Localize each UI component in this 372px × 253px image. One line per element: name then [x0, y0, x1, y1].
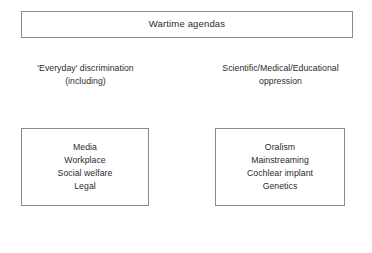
title-box: Wartime agendas	[21, 11, 353, 38]
list-item: Social welfare	[58, 167, 113, 180]
column-header-left: 'Everyday' discrimination (including)	[8, 62, 163, 87]
column-header-right-line1: Scientific/Medical/Educational	[203, 62, 358, 75]
list-item: Workplace	[64, 154, 105, 167]
page-title: Wartime agendas	[149, 19, 225, 29]
column-header-left-line2: (including)	[8, 75, 163, 88]
content-box-right: Oralism Mainstreaming Cochlear implant G…	[215, 128, 345, 206]
slide-canvas: Wartime agendas 'Everyday' discriminatio…	[0, 0, 372, 253]
column-header-right-line2: oppression	[203, 75, 358, 88]
content-box-left: Media Workplace Social welfare Legal	[21, 128, 149, 206]
list-item: Genetics	[263, 180, 298, 193]
list-item: Oralism	[265, 141, 295, 154]
list-item: Cochlear implant	[247, 167, 313, 180]
list-item: Media	[73, 141, 97, 154]
list-item: Legal	[74, 180, 96, 193]
list-item: Mainstreaming	[251, 154, 309, 167]
column-header-left-line1: 'Everyday' discrimination	[8, 62, 163, 75]
column-header-right: Scientific/Medical/Educational oppressio…	[203, 62, 358, 87]
